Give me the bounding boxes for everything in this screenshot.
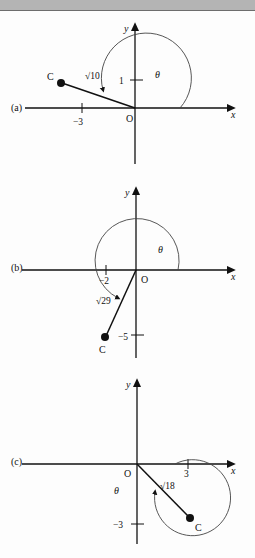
origin-label: O	[124, 468, 131, 479]
origin-label: O	[126, 113, 133, 124]
x-axis-label: x	[230, 271, 236, 282]
origin-label: O	[141, 274, 148, 285]
y-tick-label: −3	[113, 520, 123, 530]
angle-label: θ	[114, 485, 119, 496]
y-axis-label: y	[124, 187, 130, 198]
radius-segment	[62, 83, 135, 108]
figure-a-label: (a)	[11, 102, 22, 113]
y-tick-label: −5	[118, 332, 128, 342]
angle-arc	[155, 460, 231, 536]
point-c-label: C	[195, 522, 202, 533]
page-top-band	[0, 0, 255, 11]
figure-c: (c) O 3	[0, 372, 255, 558]
x-tick-label: −2	[99, 276, 109, 286]
x-tick-label: 3	[184, 469, 189, 479]
angle-arc	[95, 219, 179, 298]
figure-c-label: (c)	[11, 456, 22, 467]
radius-label: √18	[160, 481, 175, 491]
angle-arc	[101, 33, 191, 108]
point-c	[186, 514, 194, 522]
x-tick-label: −3	[73, 117, 83, 127]
radius-label: √10	[85, 71, 100, 81]
point-c	[57, 79, 65, 87]
x-axis-label: x	[230, 465, 236, 476]
y-axis-label: y	[123, 23, 129, 34]
point-c-label: C	[99, 344, 106, 355]
figure-b-label: (b)	[11, 262, 23, 273]
point-c-label: C	[47, 71, 54, 82]
figure-page: (a) C √1	[0, 0, 255, 558]
y-tick-label: 1	[119, 76, 124, 86]
point-c	[101, 333, 109, 341]
figure-a-diagram: C √10 θ −3 1 O x y	[0, 14, 255, 180]
figure-b-diagram: −2 √29 θ C −5 O x y	[0, 180, 255, 370]
figure-a: (a) C √1	[0, 14, 255, 180]
y-axis-label: y	[125, 379, 131, 390]
x-axis-label: x	[230, 109, 236, 120]
angle-label: θ	[155, 69, 160, 80]
radius-label: √29	[96, 296, 111, 306]
figure-b: (b) −2 √	[0, 180, 255, 370]
figure-c-diagram: O 3 √18 θ −3 C x y	[0, 372, 255, 558]
angle-label: θ	[158, 244, 163, 255]
